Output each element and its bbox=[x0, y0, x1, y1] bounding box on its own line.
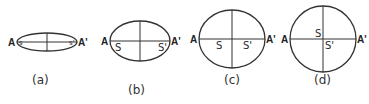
focus-label-s-prime: S' bbox=[243, 40, 252, 51]
panel-a: AA'ss'(a) bbox=[8, 33, 88, 87]
panel-caption: (c) bbox=[224, 73, 240, 87]
vertex-label-a: A bbox=[281, 34, 288, 45]
vertex-label-a-prime: A' bbox=[357, 34, 367, 45]
panel-c: AA'SS'(c) bbox=[190, 10, 276, 87]
vertex-label-a: A bbox=[8, 37, 15, 48]
ellipse-eccentricity-diagram: AA'ss'(a)AA'SS'(b)AA'SS'(c)AA'SS'(d) bbox=[0, 0, 369, 104]
panel-caption: (d) bbox=[314, 73, 331, 87]
vertex-label-a: A bbox=[101, 36, 108, 47]
vertex-label-a: A bbox=[190, 34, 197, 45]
focus-label-s-prime: S' bbox=[325, 40, 334, 51]
vertex-label-a-prime: A' bbox=[171, 36, 181, 47]
panel-caption: (a) bbox=[32, 73, 49, 87]
panel-d: AA'SS'(d) bbox=[281, 6, 367, 87]
focus-label-s-prime: S' bbox=[158, 42, 167, 53]
panel-caption: (b) bbox=[128, 83, 145, 97]
vertex-label-a-prime: A' bbox=[78, 37, 88, 48]
focus-label-s: s bbox=[19, 39, 23, 47]
focus-label-s: S bbox=[216, 40, 222, 51]
diagram-canvas: AA'ss'(a)AA'SS'(b)AA'SS'(c)AA'SS'(d) bbox=[0, 0, 369, 104]
focus-label-s: S bbox=[315, 28, 321, 39]
panel-b: AA'SS'(b) bbox=[101, 21, 181, 97]
vertex-label-a-prime: A' bbox=[266, 34, 276, 45]
focus-label-s-prime: s' bbox=[69, 39, 75, 47]
focus-label-s: S bbox=[115, 42, 121, 53]
